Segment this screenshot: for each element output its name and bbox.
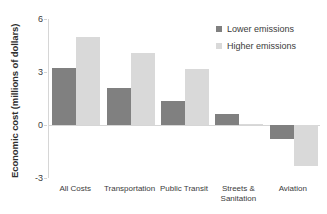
x-axis-label: All Costs bbox=[48, 184, 102, 194]
x-axis-label: Aviation bbox=[266, 184, 320, 194]
y-tick-mark bbox=[44, 19, 47, 20]
bar bbox=[239, 124, 263, 125]
y-tick-label: -3 bbox=[35, 174, 43, 183]
legend-label-lower: Lower emissions bbox=[227, 24, 294, 34]
bar bbox=[270, 125, 294, 139]
y-axis-line bbox=[48, 19, 49, 178]
y-tick-label: 0 bbox=[38, 121, 43, 130]
legend-item-lower-emissions: Lower emissions bbox=[216, 20, 296, 37]
legend-swatch-icon-lower bbox=[216, 26, 222, 32]
bar bbox=[294, 125, 318, 166]
bar bbox=[76, 37, 100, 125]
y-axis-title: Economic cost (millions of dollars) bbox=[8, 28, 22, 178]
bar bbox=[107, 88, 131, 125]
x-axis-label: Transportation bbox=[102, 184, 156, 194]
y-tick-label: 3 bbox=[38, 68, 43, 77]
legend-item-higher-emissions: Higher emissions bbox=[216, 37, 296, 54]
x-axis-label: Streets & Sanitation bbox=[211, 184, 265, 204]
x-axis-label: Public Transit bbox=[157, 184, 211, 194]
legend: Lower emissions Higher emissions bbox=[216, 20, 296, 54]
bar bbox=[161, 101, 185, 125]
legend-swatch-icon-higher bbox=[216, 43, 222, 49]
bar bbox=[185, 69, 209, 125]
bar bbox=[131, 53, 155, 125]
y-tick-label: 6 bbox=[38, 15, 43, 24]
y-tick-mark bbox=[44, 72, 47, 73]
bar bbox=[215, 114, 239, 125]
y-tick-mark bbox=[44, 178, 47, 179]
legend-label-higher: Higher emissions bbox=[227, 41, 296, 51]
y-tick-mark bbox=[44, 125, 47, 126]
bar bbox=[52, 68, 76, 125]
bar-chart: Economic cost (millions of dollars) 630-… bbox=[0, 0, 327, 214]
